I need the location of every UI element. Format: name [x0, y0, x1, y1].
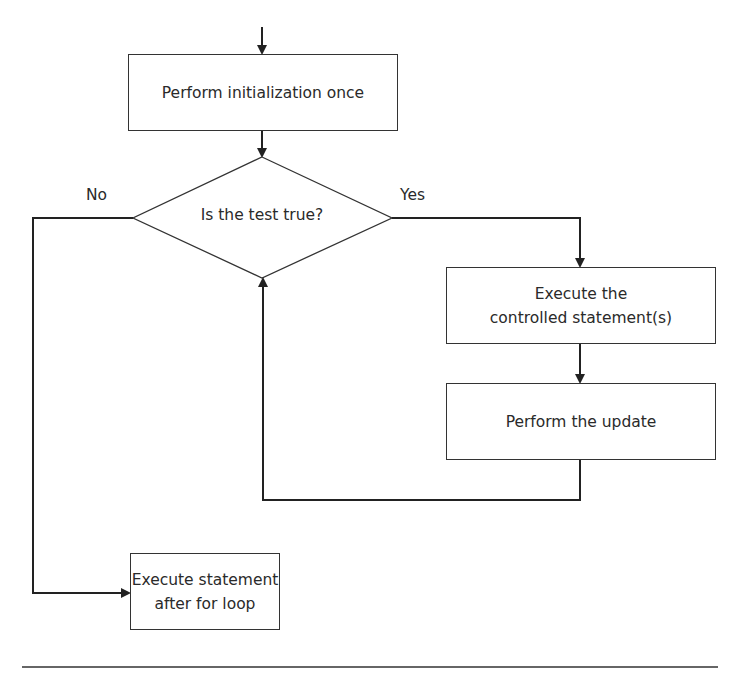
- after-loop-box: Execute statement after for loop: [130, 553, 280, 630]
- no-label: No: [86, 186, 107, 204]
- decision-label: Is the test true?: [162, 206, 362, 224]
- init-label: Perform initialization once: [162, 81, 364, 105]
- body-box: Execute the controlled statement(s): [446, 267, 716, 344]
- after-label-line-1: Execute statement: [132, 568, 279, 592]
- update-box: Perform the update: [446, 383, 716, 460]
- body-label-line-1: Execute the: [490, 282, 672, 306]
- body-label-line-2: controlled statement(s): [490, 306, 672, 330]
- yes-branch-arrow: [392, 218, 580, 266]
- init-box: Perform initialization once: [128, 54, 398, 131]
- update-label: Perform the update: [506, 410, 657, 434]
- no-branch-arrow: [33, 218, 133, 593]
- yes-label: Yes: [400, 186, 425, 204]
- after-label-line-2: after for loop: [132, 592, 279, 616]
